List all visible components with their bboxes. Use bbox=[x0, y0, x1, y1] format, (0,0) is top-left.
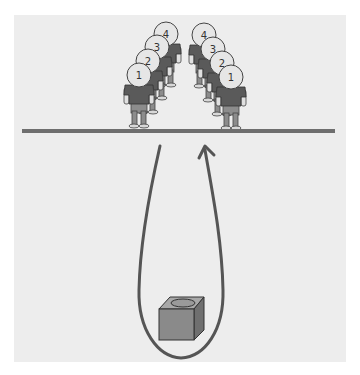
person-left-1: 1 bbox=[124, 63, 154, 128]
person-number: 1 bbox=[136, 70, 142, 81]
diagram-canvas: 4 3 2 1 4 3 2 1 bbox=[0, 0, 360, 375]
left-line-people: 4 3 2 1 bbox=[124, 22, 181, 128]
person-number: 1 bbox=[228, 72, 234, 83]
horizontal-line bbox=[22, 129, 335, 133]
right-line-people: 4 3 2 1 bbox=[189, 23, 246, 130]
person-right-1: 1 bbox=[216, 65, 246, 130]
box-icon bbox=[159, 297, 204, 340]
